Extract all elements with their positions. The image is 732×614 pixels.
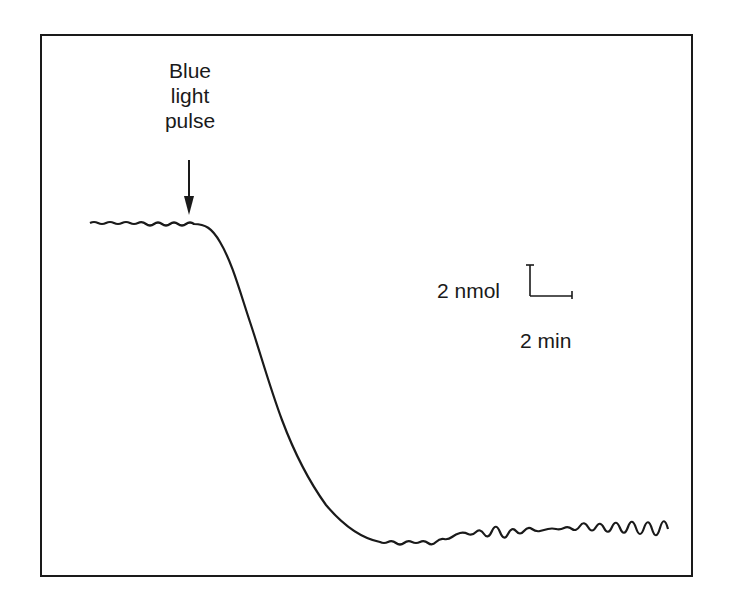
trace-plot (0, 0, 732, 614)
pulse-line-1: Blue (150, 58, 230, 83)
pulse-annotation: Blue light pulse (150, 58, 230, 133)
data-trace (90, 222, 668, 545)
pulse-arrow-icon (184, 160, 194, 215)
horizontal-scale-label: 2 min (520, 329, 571, 353)
scale-bar (526, 265, 572, 299)
pulse-line-3: pulse (150, 108, 230, 133)
vertical-scale-label: 2 nmol (437, 279, 500, 303)
pulse-line-2: light (150, 83, 230, 108)
